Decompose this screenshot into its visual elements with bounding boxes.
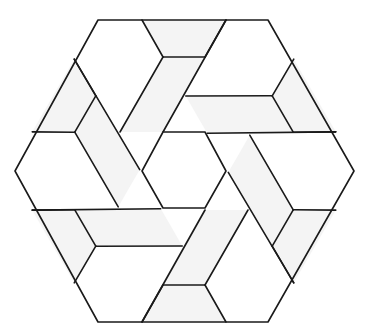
inner-hexagon bbox=[142, 132, 226, 208]
shaded-region bbox=[142, 285, 226, 322]
shaded-region bbox=[120, 57, 205, 132]
figure-canvas: Hexagonal interlocking tiling pattern bbox=[0, 0, 367, 334]
hexagon-pattern bbox=[0, 0, 367, 334]
shaded-region bbox=[163, 210, 248, 285]
shaded-region bbox=[142, 20, 226, 57]
